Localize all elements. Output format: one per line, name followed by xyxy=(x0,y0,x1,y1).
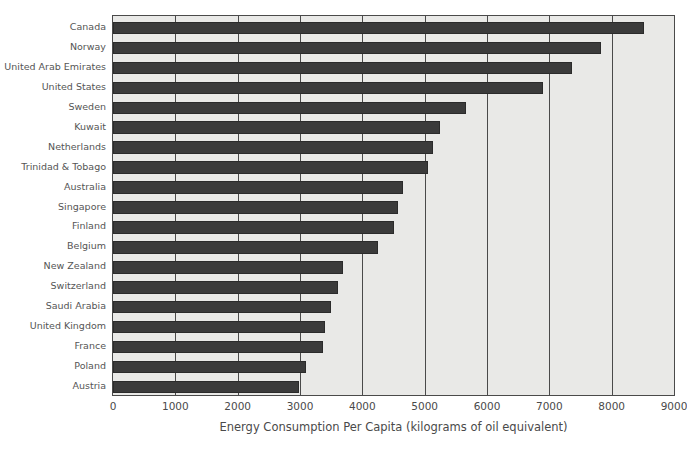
category-label: Saudi Arabia xyxy=(0,300,106,311)
bar-row xyxy=(113,42,674,55)
category-label: Belgium xyxy=(0,240,106,251)
bar xyxy=(113,261,343,274)
x-tick-label-5000: 5000 xyxy=(411,400,438,412)
bar-row xyxy=(113,62,674,75)
bar-row xyxy=(113,361,674,374)
bar-row xyxy=(113,181,674,194)
plot-area xyxy=(112,15,675,396)
category-label: Finland xyxy=(0,220,106,231)
category-label: Singapore xyxy=(0,201,106,212)
category-label: Sweden xyxy=(0,101,106,112)
category-label: Trinidad & Tobago xyxy=(0,161,106,172)
category-label: New Zealand xyxy=(0,260,106,271)
bar-row xyxy=(113,221,674,234)
bar xyxy=(113,221,394,234)
x-tick-label-9000: 9000 xyxy=(661,400,687,412)
category-label: Austria xyxy=(0,380,106,391)
x-tick-label-6000: 6000 xyxy=(474,400,501,412)
bar xyxy=(113,102,466,115)
bar-row xyxy=(113,321,674,334)
x-tick-label-7000: 7000 xyxy=(536,400,563,412)
bar-row xyxy=(113,22,674,35)
x-tick-label-4000: 4000 xyxy=(349,400,376,412)
bar xyxy=(113,121,440,134)
bar xyxy=(113,381,299,394)
bar xyxy=(113,141,433,154)
x-axis-tick-labels: 0100020003000400050006000700080009000 xyxy=(0,400,682,416)
category-label: France xyxy=(0,340,106,351)
x-tick-label-8000: 8000 xyxy=(598,400,625,412)
bar xyxy=(113,181,403,194)
bar xyxy=(113,22,644,35)
x-tick-label-0: 0 xyxy=(110,400,117,412)
x-tick-label-3000: 3000 xyxy=(287,400,314,412)
bar-row xyxy=(113,381,674,394)
bar-row xyxy=(113,121,674,134)
category-label: Switzerland xyxy=(0,280,106,291)
x-tick-label-2000: 2000 xyxy=(224,400,251,412)
category-label: Kuwait xyxy=(0,121,106,132)
bar-row xyxy=(113,301,674,314)
category-axis-labels: CanadaNorwayUnited Arab EmiratesUnited S… xyxy=(0,15,106,396)
bar xyxy=(113,62,572,75)
bar xyxy=(113,361,306,374)
x-tick-label-1000: 1000 xyxy=(162,400,189,412)
category-label: Norway xyxy=(0,41,106,52)
x-axis-title: Energy Consumption Per Capita (kilograms… xyxy=(112,420,675,434)
bar xyxy=(113,241,378,254)
bar-row xyxy=(113,261,674,274)
bar-row xyxy=(113,341,674,354)
bar xyxy=(113,42,601,55)
bar-row xyxy=(113,141,674,154)
bar xyxy=(113,321,325,334)
category-label: Canada xyxy=(0,21,106,32)
bar-row xyxy=(113,281,674,294)
category-label: United Kingdom xyxy=(0,320,106,331)
bar-row xyxy=(113,82,674,95)
category-label: Netherlands xyxy=(0,141,106,152)
bar-row xyxy=(113,102,674,115)
category-label: Poland xyxy=(0,360,106,371)
bar xyxy=(113,82,543,95)
bar-row xyxy=(113,161,674,174)
category-label: Australia xyxy=(0,181,106,192)
bar xyxy=(113,161,428,174)
bar xyxy=(113,281,338,294)
bar-row xyxy=(113,201,674,214)
bar xyxy=(113,341,323,354)
bar xyxy=(113,201,398,214)
bar xyxy=(113,301,331,314)
category-label: United States xyxy=(0,81,106,92)
category-label: United Arab Emirates xyxy=(0,61,106,72)
bar-row xyxy=(113,241,674,254)
